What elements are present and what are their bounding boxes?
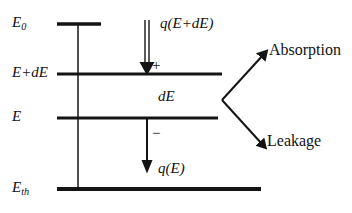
level-label-E-main: E	[12, 108, 21, 124]
outflux-arrow	[142, 118, 153, 174]
outflux-label-suffix: )	[180, 160, 185, 176]
level-label-Eth-sub: th	[21, 186, 29, 197]
branch-line-leakage	[222, 100, 262, 144]
level-label-E-plus-dE: E+dE	[12, 65, 48, 80]
interval-label-dE-text: dE	[158, 88, 175, 104]
diagram-canvas	[0, 0, 352, 213]
level-label-Eth-main: E	[12, 179, 21, 195]
level-label-E: E	[12, 109, 21, 124]
level-label-Eth: Eth	[12, 180, 29, 197]
influx-sign-plus: +	[152, 58, 160, 73]
outflux-sign-minus: −	[152, 126, 160, 141]
branch-arrows	[222, 54, 264, 144]
influx-label-prefix: q(	[160, 15, 173, 31]
level-label-E0-sub: 0	[21, 21, 26, 32]
outflux-label-body: E	[171, 160, 180, 176]
outflux-label: q(E)	[158, 161, 185, 176]
influx-label: q(E+dE)	[160, 16, 213, 31]
level-label-E0: E0	[12, 15, 26, 32]
influx-label-body: E+dE	[173, 15, 209, 31]
influx-label-suffix: )	[208, 15, 213, 31]
branch-label-leakage: Leakage	[267, 133, 321, 149]
outflux-label-prefix: q(	[158, 160, 171, 176]
level-label-E-plus-dE-main: E+dE	[12, 64, 48, 80]
level-label-E0-main: E	[12, 14, 21, 30]
branch-label-absorption: Absorption	[269, 42, 341, 58]
branch-line-absorption	[222, 54, 264, 100]
interval-label-dE: dE	[158, 89, 175, 104]
energy-level-diagram: E0 E+dE E Eth q(E+dE) + dE − q(E) Absorp…	[0, 0, 352, 213]
